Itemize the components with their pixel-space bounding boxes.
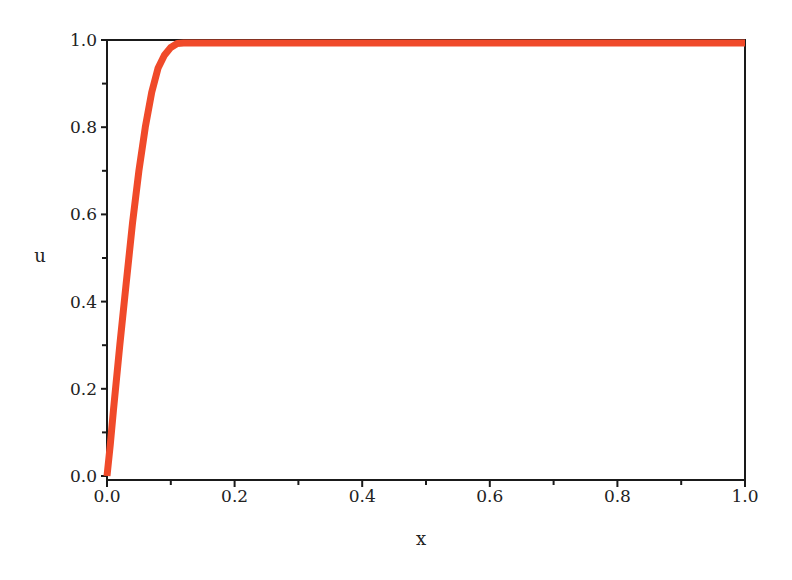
plot-frame [107, 40, 745, 480]
data-series-line [107, 43, 745, 476]
x-tick-label: 0.0 [93, 486, 120, 506]
y-tick-label: 0.6 [70, 204, 97, 224]
y-tick-label: 0.2 [70, 379, 97, 399]
x-tick-label: 0.8 [604, 486, 631, 506]
y-tick-label: 0.0 [70, 466, 97, 486]
x-tick-label: 1.0 [731, 486, 758, 506]
y-axis-ticks: 0.00.20.40.60.81.0 [70, 30, 107, 486]
line-chart: 0.00.20.40.60.81.0 0.00.20.40.60.81.0 x … [0, 0, 792, 580]
y-axis-label: u [34, 245, 46, 266]
y-tick-label: 0.8 [70, 117, 97, 137]
x-axis-label: x [416, 528, 426, 549]
y-tick-label: 0.4 [70, 292, 97, 312]
x-tick-label: 0.6 [476, 486, 503, 506]
x-tick-label: 0.2 [221, 486, 248, 506]
x-tick-label: 0.4 [349, 486, 376, 506]
y-tick-label: 1.0 [70, 30, 97, 50]
x-axis-ticks: 0.00.20.40.60.81.0 [93, 480, 758, 506]
